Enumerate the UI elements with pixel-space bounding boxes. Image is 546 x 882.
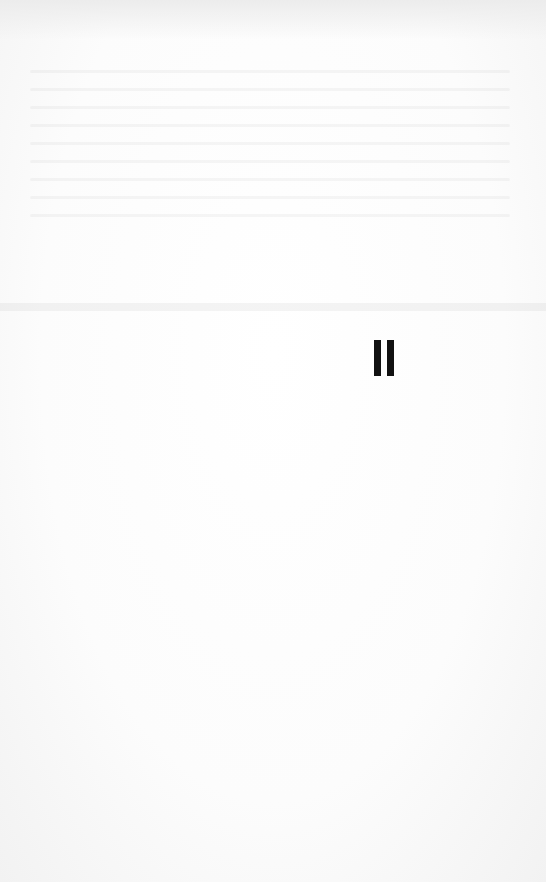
bleed-through-text [30,55,510,255]
roman-numeral-two-mark [374,340,394,376]
scanned-page [0,0,546,882]
mark-bar-left [374,340,381,376]
bleed-through-line [0,303,546,311]
page-edge-shadow [0,0,546,40]
mark-bar-right [387,340,394,376]
